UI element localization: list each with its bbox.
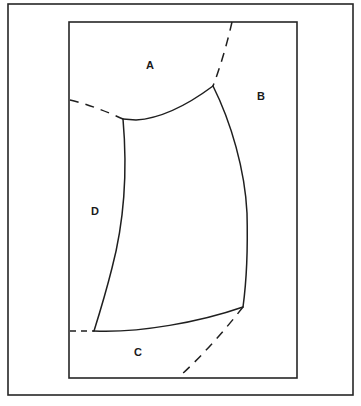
figure-container: A B C D — [0, 0, 361, 406]
canvas-background — [0, 0, 361, 406]
region-label-b: B — [257, 90, 265, 102]
region-label-d: D — [91, 205, 99, 217]
region-label-a: A — [146, 59, 154, 71]
region-label-c: C — [134, 346, 142, 358]
partition-diagram: A B C D — [0, 0, 361, 406]
